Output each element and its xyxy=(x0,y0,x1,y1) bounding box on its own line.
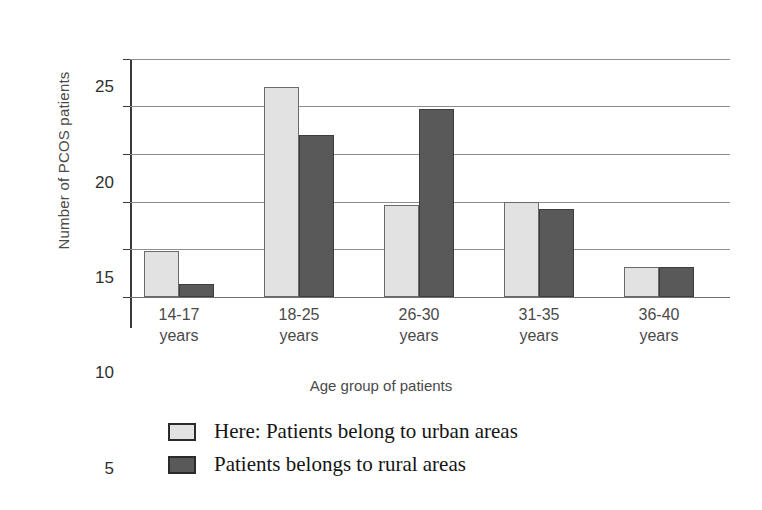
x-axis-label-line: years xyxy=(479,326,599,347)
y-axis-tick: 10 xyxy=(123,202,130,203)
y-axis-tick: 5 xyxy=(123,249,130,250)
bar-rural-0 xyxy=(179,284,214,297)
y-axis-tick: 0 xyxy=(123,297,130,298)
bar-urban-2 xyxy=(384,205,419,297)
y-axis-tick: 15 xyxy=(123,154,130,155)
y-axis-tick: 25 xyxy=(123,59,130,60)
x-axis-label-0: 14-17years xyxy=(119,305,239,347)
y-axis-tick-label: 20 xyxy=(95,173,114,193)
bar-rural-1 xyxy=(299,135,334,297)
x-axis-label-line: 26-30 xyxy=(359,305,479,326)
x-axis-label-line: years xyxy=(359,326,479,347)
x-axis-label-line: 31-35 xyxy=(479,305,599,326)
y-axis-tick-label: 15 xyxy=(95,268,114,288)
legend-item-urban: Here: Patients belong to urban areas xyxy=(168,415,688,448)
gridline xyxy=(130,59,730,60)
x-axis-label-3: 31-35years xyxy=(479,305,599,347)
bar-urban-0 xyxy=(144,251,179,297)
x-axis-label-line: years xyxy=(599,326,719,347)
gridline xyxy=(130,297,730,298)
bar-rural-2 xyxy=(419,109,454,297)
bar-urban-3 xyxy=(504,202,539,297)
x-axis-label-line: years xyxy=(119,326,239,347)
chart-legend: Here: Patients belong to urban areasPati… xyxy=(168,415,688,481)
bar-urban-1 xyxy=(264,87,299,297)
legend-label-urban: Here: Patients belong to urban areas xyxy=(214,419,518,444)
gridline xyxy=(130,106,730,107)
bar-rural-3 xyxy=(539,209,574,297)
plot-area: 0510152025 xyxy=(130,30,730,297)
y-axis-tick-label: 25 xyxy=(95,77,114,97)
y-axis-title: Number of PCOS patients xyxy=(55,36,72,286)
legend-item-rural: Patients belongs to rural areas xyxy=(168,448,688,481)
bar-rural-4 xyxy=(659,267,694,298)
x-axis-label-2: 26-30years xyxy=(359,305,479,347)
legend-swatch-urban xyxy=(168,423,196,441)
bar-urban-4 xyxy=(624,267,659,298)
bar-chart-figure: Number of PCOS patients 0510152025 14-17… xyxy=(0,0,762,510)
x-axis-title: Age group of patients xyxy=(0,377,762,394)
x-axis-label-1: 18-25years xyxy=(239,305,359,347)
legend-swatch-rural xyxy=(168,456,196,474)
y-axis-line xyxy=(130,60,132,328)
x-axis-label-line: 36-40 xyxy=(599,305,719,326)
legend-label-rural: Patients belongs to rural areas xyxy=(214,452,466,477)
x-axis-label-line: years xyxy=(239,326,359,347)
y-axis-tick-label: 5 xyxy=(105,459,114,479)
y-axis-tick: 20 xyxy=(123,106,130,107)
x-axis-label-line: 18-25 xyxy=(239,305,359,326)
x-axis-label-4: 36-40years xyxy=(599,305,719,347)
x-axis-label-line: 14-17 xyxy=(119,305,239,326)
